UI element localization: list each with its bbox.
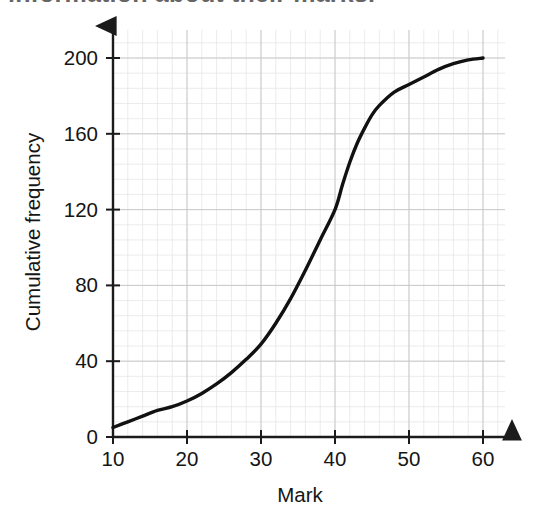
y-axis-title: Cumulative frequency bbox=[21, 132, 44, 331]
x-tick-label: 10 bbox=[102, 447, 125, 470]
x-axis-tick-labels: 102030405060 bbox=[102, 447, 495, 470]
y-axis-tick-labels: 04080120160200 bbox=[64, 46, 98, 448]
y-tick-label: 120 bbox=[64, 198, 98, 221]
y-tick-label: 40 bbox=[75, 349, 98, 372]
cumulative-frequency-chart: 04080120160200 102030405060 Cumulative f… bbox=[0, 0, 535, 518]
y-tick-label: 80 bbox=[75, 273, 98, 296]
y-tick-label: 160 bbox=[64, 122, 98, 145]
x-axis-title: Mark bbox=[277, 483, 323, 506]
y-tick-label: 0 bbox=[87, 425, 98, 448]
x-tick-label: 30 bbox=[250, 447, 273, 470]
x-tick-label: 20 bbox=[176, 447, 199, 470]
x-tick-label: 60 bbox=[472, 447, 495, 470]
chart-canvas: 04080120160200 102030405060 Cumulative f… bbox=[0, 0, 535, 518]
x-tick-label: 40 bbox=[324, 447, 347, 470]
y-tick-label: 200 bbox=[64, 46, 98, 69]
plot-background bbox=[113, 30, 505, 437]
x-tick-label: 50 bbox=[398, 447, 421, 470]
